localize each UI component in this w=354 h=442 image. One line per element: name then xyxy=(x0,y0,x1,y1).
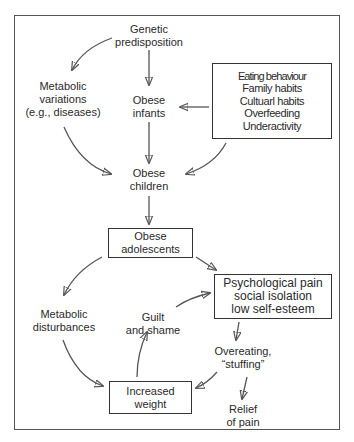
node-genetic-predisposition: Genetic predisposition xyxy=(108,23,190,49)
arrow-metabolic-disturbances-to-weight xyxy=(63,340,103,386)
arrow-factors-to-children xyxy=(186,143,226,174)
arrow-guilt-to-psych-pain xyxy=(176,293,210,307)
arrow-genetic-to-metabolic-variations xyxy=(72,38,112,70)
arrow-adolescents-to-metabolic-disturbances xyxy=(64,257,102,295)
node-metabolic-disturbances: Metabolic disturbances xyxy=(26,308,102,334)
node-obese-adolescents: Obese adolescents xyxy=(108,228,193,258)
node-metabolic-variations: Metabolic variations (e.g., diseases) xyxy=(22,80,104,119)
node-increased-weight: Increased weight xyxy=(109,381,192,414)
node-guilt-and-shame: Guilt and shame xyxy=(121,311,185,337)
node-relief-of-pain: Relief of pain xyxy=(218,403,268,429)
node-obese-children: Obese children xyxy=(118,167,180,193)
arrow-psych-pain-to-overeating xyxy=(236,322,239,340)
arrow-weight-to-guilt xyxy=(137,332,147,377)
node-obese-infants: Obese infants xyxy=(118,94,180,120)
arrow-metabolic-variations-to-children xyxy=(64,127,111,174)
node-environmental-factors: Eating behaviour Family habits Cultuarl … xyxy=(212,63,332,139)
arrow-overeating-to-relief xyxy=(242,377,247,399)
arrow-adolescents-to-psych-pain xyxy=(196,257,216,270)
arrow-overeating-to-weight xyxy=(196,372,217,388)
node-overeating: Overeating, “stuffing” xyxy=(206,345,280,371)
node-psychological-pain: Psychological pain social isolation low … xyxy=(214,274,332,319)
